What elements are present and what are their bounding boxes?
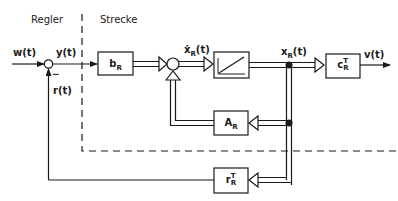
- signal-r: r(t): [53, 86, 72, 96]
- block-label-a-r: AR: [214, 117, 248, 131]
- minus-sign: −: [52, 70, 60, 79]
- diagram-lines: [0, 0, 398, 201]
- signal-x: xR(t): [281, 47, 307, 60]
- summing-junction-1: [44, 60, 52, 68]
- branch-point-state: [286, 62, 293, 69]
- region-label-plant: Strecke: [100, 15, 137, 25]
- signal-y: y(t): [56, 48, 76, 58]
- branch-point-feedback: [286, 120, 293, 127]
- block-label-r-r-t: rTR: [214, 173, 248, 187]
- block-label-b-r: bR: [98, 58, 133, 72]
- block-label-c-r-t: cTR: [326, 58, 360, 72]
- signal-xdot: ẋR(t): [184, 45, 210, 58]
- signal-w: w(t): [13, 48, 36, 58]
- block-diagram: Regler Strecke w(t) y(t) − r(t) ẋR(t) xR…: [0, 0, 398, 201]
- signal-v: v(t): [364, 50, 384, 60]
- summing-junction-2: [167, 58, 179, 70]
- region-label-controller: Regler: [31, 15, 63, 25]
